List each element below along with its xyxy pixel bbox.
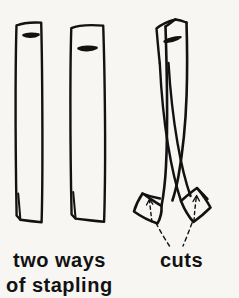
caption-cuts: cuts bbox=[160, 250, 203, 270]
strip-1-staple bbox=[24, 34, 39, 37]
caption-two-ways: two ways bbox=[13, 250, 106, 270]
caption-of-stapling: of stapling bbox=[6, 275, 113, 295]
strip-2-staple bbox=[79, 47, 97, 50]
